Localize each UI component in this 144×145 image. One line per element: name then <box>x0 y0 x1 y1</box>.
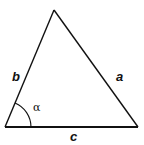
side-a <box>54 10 138 127</box>
label-a: a <box>116 69 123 84</box>
label-b: b <box>12 69 20 84</box>
label-alpha: α <box>33 101 41 114</box>
label-c: c <box>70 129 78 144</box>
angle-alpha-arc <box>15 103 31 127</box>
triangle-diagram: b a c α <box>0 0 144 145</box>
